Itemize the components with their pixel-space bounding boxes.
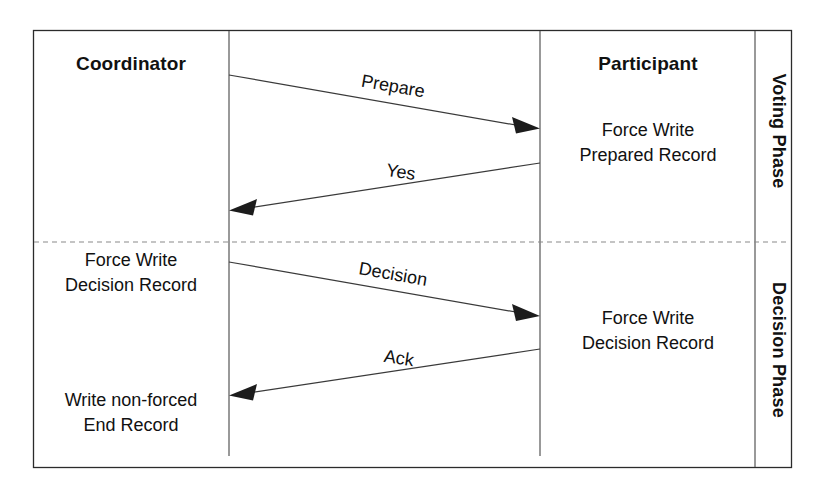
note-participant-prepared-line1: Force Write <box>602 120 695 140</box>
phase-label-voting: Voting Phase <box>769 73 789 188</box>
arrowhead-prepare <box>512 117 540 134</box>
note-coordinator-decision-line2: Decision Record <box>65 275 197 295</box>
message-label-yes: Yes <box>385 160 417 184</box>
arrowhead-yes <box>229 199 257 216</box>
note-coordinator-end-line2: End Record <box>83 415 178 435</box>
message-label-prepare: Prepare <box>360 71 427 102</box>
arrowhead-ack <box>229 384 257 401</box>
message-label-decision: Decision <box>357 258 428 290</box>
note-participant-decision-line2: Decision Record <box>582 333 714 353</box>
phase-label-decision: Decision Phase <box>769 282 789 418</box>
note-coordinator-decision-line1: Force Write <box>85 250 178 270</box>
message-label-ack: Ack <box>383 346 417 370</box>
note-participant-decision-line1: Force Write <box>602 308 695 328</box>
arrowhead-decision <box>512 304 540 321</box>
sequence-diagram-svg: Coordinator Participant Prepare Force Wr… <box>0 0 824 498</box>
actor-label-participant: Participant <box>598 53 698 74</box>
note-coordinator-end-line1: Write non-forced <box>65 390 198 410</box>
note-participant-prepared-line2: Prepared Record <box>579 145 716 165</box>
sequence-diagram-canvas: Coordinator Participant Prepare Force Wr… <box>0 0 824 498</box>
actor-label-coordinator: Coordinator <box>76 53 186 74</box>
